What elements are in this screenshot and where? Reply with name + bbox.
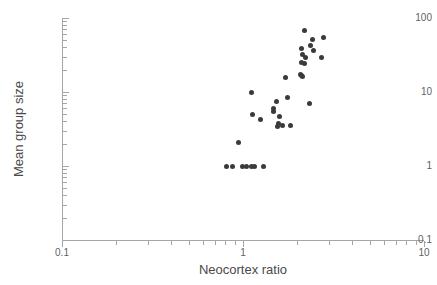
data-point <box>283 75 288 80</box>
data-point <box>311 48 316 53</box>
y-axis-minor-tick <box>63 121 67 122</box>
y-axis-title: Mean group size <box>10 18 28 240</box>
y-axis-tick-label: 10 <box>381 87 437 97</box>
y-axis-tick <box>63 240 69 241</box>
data-point <box>299 46 304 51</box>
x-axis-minor-tick <box>370 241 371 245</box>
y-axis-minor-tick <box>63 131 67 132</box>
data-point <box>258 117 263 122</box>
x-axis-minor-tick <box>215 241 216 245</box>
y-axis-minor-tick <box>63 21 67 22</box>
data-point <box>274 99 279 104</box>
data-point <box>250 112 255 117</box>
x-axis-minor-tick <box>396 241 397 245</box>
y-axis-minor-tick <box>63 34 67 35</box>
y-axis-minor-tick <box>63 95 67 96</box>
y-axis-minor-tick <box>63 99 67 100</box>
y-axis-minor-tick <box>63 57 67 58</box>
y-axis-minor-tick <box>63 182 67 183</box>
y-axis-minor-tick <box>63 47 67 48</box>
x-axis-minor-tick <box>171 241 172 245</box>
y-axis-tick <box>63 18 69 19</box>
x-axis-minor-tick <box>189 241 190 245</box>
data-point <box>280 123 285 128</box>
y-axis-tick-label: 100 <box>381 13 437 23</box>
data-point <box>307 101 312 106</box>
y-axis-tick <box>63 166 69 167</box>
y-axis-minor-tick <box>63 144 67 145</box>
y-axis-tick <box>63 92 69 93</box>
y-axis-tick-label: 0.1 <box>381 235 437 245</box>
data-point <box>252 164 257 169</box>
data-point <box>321 35 326 40</box>
x-axis-minor-tick <box>148 241 149 245</box>
x-axis-minor-tick <box>416 241 417 245</box>
y-axis-minor-tick <box>63 173 67 174</box>
y-axis-line <box>62 18 63 240</box>
x-axis-minor-tick <box>406 241 407 245</box>
x-axis-tick-label: 0.1 <box>42 247 82 258</box>
y-axis-minor-tick <box>63 195 67 196</box>
y-axis-minor-tick <box>63 40 67 41</box>
data-point <box>230 164 235 169</box>
data-point <box>285 95 290 100</box>
y-axis-minor-tick <box>63 169 67 170</box>
data-point <box>224 164 229 169</box>
y-axis-minor-tick <box>63 108 67 109</box>
y-axis-minor-tick <box>63 218 67 219</box>
x-axis-minor-tick <box>116 241 117 245</box>
data-point <box>236 140 241 145</box>
data-point <box>303 55 308 60</box>
x-axis-minor-tick <box>203 241 204 245</box>
x-axis-tick-label: 10 <box>404 247 437 258</box>
y-axis-minor-tick <box>63 205 67 206</box>
x-axis-tick-label: 1 <box>223 247 263 258</box>
x-axis-title: Neocortex ratio <box>62 262 424 278</box>
y-axis-tick-label: 1 <box>381 161 437 171</box>
data-point <box>302 61 307 66</box>
x-axis-minor-tick <box>297 241 298 245</box>
data-point <box>271 109 276 114</box>
y-axis-minor-tick <box>63 114 67 115</box>
plot-area <box>62 18 424 240</box>
data-point <box>302 28 307 33</box>
data-point <box>277 114 282 119</box>
x-axis-minor-tick <box>352 241 353 245</box>
scatter-plot-figure: 1001010.10.1110 Mean group size Neocorte… <box>0 0 437 285</box>
data-point <box>300 74 305 79</box>
x-axis-minor-tick <box>225 241 226 245</box>
x-axis-minor-tick <box>329 241 330 245</box>
y-axis-minor-tick <box>63 70 67 71</box>
y-axis-minor-tick <box>63 188 67 189</box>
y-axis-minor-tick <box>63 29 67 30</box>
data-point <box>288 123 293 128</box>
data-point <box>310 37 315 42</box>
y-axis-minor-tick <box>63 177 67 178</box>
y-axis-minor-tick <box>63 103 67 104</box>
data-point <box>261 164 266 169</box>
x-axis-minor-tick <box>384 241 385 245</box>
data-point <box>249 90 254 95</box>
x-axis-minor-tick <box>235 241 236 245</box>
data-point <box>319 55 324 60</box>
y-axis-minor-tick <box>63 25 67 26</box>
